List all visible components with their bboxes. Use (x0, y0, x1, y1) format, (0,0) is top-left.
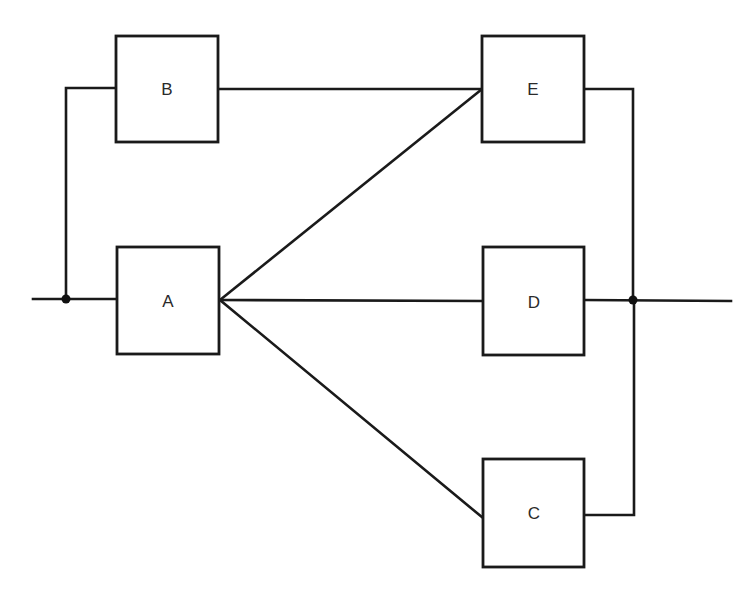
input-junction-dot (62, 295, 71, 304)
block-diagram: B A E D C (0, 0, 754, 594)
block-d-label: D (528, 293, 540, 312)
block-a: A (117, 247, 219, 354)
output-junction-dot (629, 296, 638, 305)
block-c: C (483, 459, 584, 567)
wire-c-to-bus (584, 300, 634, 515)
block-e-label: E (527, 80, 538, 99)
block-a-label: A (162, 292, 174, 311)
block-d: D (483, 247, 584, 355)
wire-e-to-bus (584, 89, 633, 300)
wire-output (584, 300, 731, 301)
wire-junction-to-b (66, 88, 116, 299)
block-c-label: C (528, 504, 540, 523)
wire-a-to-c (220, 300, 483, 518)
wire-a-to-d (220, 300, 483, 301)
block-b: B (116, 36, 218, 142)
block-b-label: B (161, 80, 172, 99)
block-e: E (482, 36, 584, 142)
wire-a-to-e (220, 89, 482, 300)
